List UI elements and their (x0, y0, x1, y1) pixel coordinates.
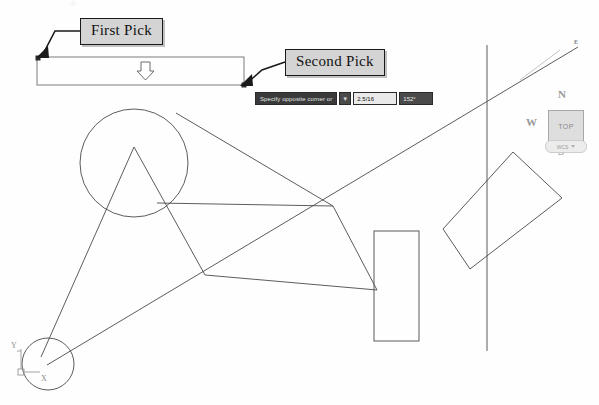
callout-second-pick: Second Pick (285, 49, 385, 76)
down-arrow-cursor (137, 62, 154, 80)
apex-to-mid-node[interactable] (134, 147, 205, 275)
viewcube-north-label[interactable]: N (558, 88, 566, 100)
coordinate-system-selector[interactable]: WCS (545, 140, 587, 153)
ucs-y-label: Y (11, 341, 17, 350)
viewcube-top-face[interactable]: TOP (548, 110, 584, 142)
chevron-down-icon[interactable] (571, 145, 575, 148)
second-pick-arrowhead (240, 74, 253, 86)
viewcube[interactable]: N W S E TOP WCS (524, 36, 596, 156)
autocad-screen: ☉ First Pick Second Pick Specify opposit… (0, 0, 599, 405)
mid-node-to-rect[interactable] (205, 275, 377, 290)
coordinate-system-label: WCS (557, 144, 569, 150)
vertical-rectangle[interactable] (374, 231, 419, 341)
second-pick-marker-group (240, 62, 285, 88)
right-node-to-rect-top[interactable] (333, 206, 377, 290)
command-bar[interactable]: Specify opposite corner or ▼ 2.5/16 152° (255, 92, 433, 105)
ucs-x-label: X (41, 374, 47, 383)
first-pick-arrowhead (36, 46, 49, 58)
chevron-down-icon[interactable]: ▼ (339, 92, 351, 105)
command-prompt-text: Specify opposite corner or (255, 92, 337, 105)
callout-first-pick: First Pick (80, 18, 163, 45)
ucs-icon (17, 349, 40, 375)
circle-edge-to-right-node[interactable] (157, 203, 333, 206)
distance-input[interactable]: 2.5/16 (353, 92, 397, 105)
upper-circle[interactable] (80, 109, 188, 217)
first-pick-marker-group (36, 31, 81, 61)
rotated-rectangle[interactable] (443, 152, 562, 269)
viewcube-east-label[interactable]: E (574, 39, 578, 45)
apex-to-lower-left[interactable] (41, 147, 134, 357)
circle-top-to-right-node[interactable] (176, 113, 333, 206)
angle-input[interactable]: 152° (399, 92, 433, 105)
viewcube-west-label[interactable]: W (526, 116, 537, 128)
scan-artifact-glyph: ☉ (70, 0, 76, 8)
